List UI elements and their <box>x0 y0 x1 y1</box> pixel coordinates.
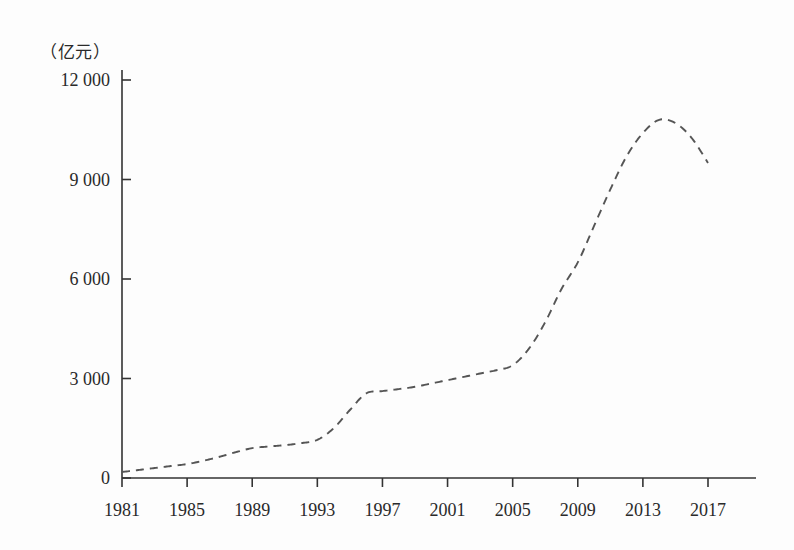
y-tick-label: 3 000 <box>70 368 111 389</box>
x-tick-label: 1981 <box>104 500 140 521</box>
chart-plot-area <box>0 0 794 550</box>
x-tick-label: 1989 <box>234 500 270 521</box>
x-tick-label: 1997 <box>364 500 400 521</box>
y-tick-label: 0 <box>101 468 110 489</box>
x-tick-label: 2009 <box>560 500 596 521</box>
y-tick-label: 9 000 <box>70 169 111 190</box>
data-series-line <box>122 119 708 472</box>
y-tick-label: 12 000 <box>61 70 111 91</box>
x-axis-ticks <box>122 478 708 487</box>
y-tick-label: 6 000 <box>70 269 111 290</box>
x-tick-label: 2017 <box>690 500 726 521</box>
x-tick-label: 1993 <box>299 500 335 521</box>
x-tick-label: 2001 <box>430 500 466 521</box>
x-tick-label: 2005 <box>495 500 531 521</box>
axis-lines <box>122 70 756 478</box>
line-chart: （亿元） 03 0006 0009 00012 000 198119851989… <box>0 0 794 550</box>
y-axis-ticks <box>122 80 131 478</box>
x-tick-label: 1985 <box>169 500 205 521</box>
x-tick-label: 2013 <box>625 500 661 521</box>
